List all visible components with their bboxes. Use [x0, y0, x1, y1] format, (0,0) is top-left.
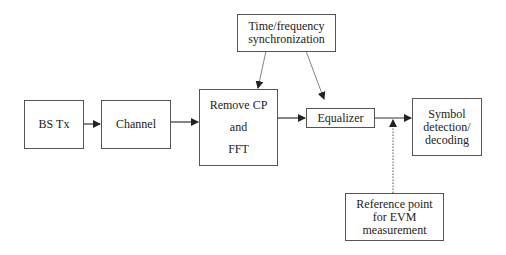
block-symbol-detection: Symbol detection/ decoding: [412, 98, 482, 156]
block-remove-cp-line2: and: [230, 121, 247, 134]
block-bs-tx: BS Tx: [24, 100, 84, 149]
arrow-sync-to-equalizer: [306, 51, 324, 99]
block-equalizer: Equalizer: [306, 108, 375, 128]
block-channel-label: Channel: [116, 118, 156, 131]
block-sync-line2: synchronization: [248, 33, 325, 46]
block-remove-cp-fft: Remove CP and FFT: [199, 89, 278, 166]
block-ref-line3: measurement: [363, 224, 427, 237]
block-equalizer-label: Equalizer: [318, 112, 364, 125]
block-time-frequency-sync: Time/frequency synchronization: [237, 14, 336, 52]
block-remove-cp-line1: Remove CP: [210, 99, 268, 112]
block-bs-tx-label: BS Tx: [39, 118, 70, 131]
block-symbol-line3: decoding: [425, 134, 469, 147]
block-channel: Channel: [101, 100, 171, 149]
arrow-sync-to-fft: [258, 51, 266, 88]
block-symbol-line2: detection/: [423, 121, 470, 134]
block-reference-point: Reference point for EVM measurement: [345, 193, 444, 241]
block-remove-cp-line3: FFT: [228, 143, 249, 156]
block-ref-line2: for EVM: [373, 211, 417, 224]
block-symbol-line1: Symbol: [428, 108, 465, 121]
block-ref-line1: Reference point: [356, 198, 432, 211]
